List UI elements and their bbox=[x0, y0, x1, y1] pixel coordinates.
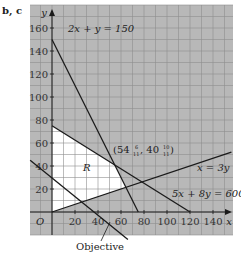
fraction-denominator-x: 11 bbox=[133, 151, 139, 157]
fraction-numerator-x: 6 bbox=[135, 144, 138, 150]
vertex-coordinate-label: (54 bbox=[113, 144, 130, 155]
y-tick-label: 20 bbox=[35, 184, 48, 195]
x-tick-label: 20 bbox=[69, 216, 82, 227]
y-tick-label: 120 bbox=[29, 69, 48, 80]
y-tick-label: 100 bbox=[29, 92, 48, 103]
y-tick-label: 160 bbox=[29, 23, 48, 34]
x-tick-label: 40 bbox=[92, 216, 105, 227]
region-label: R bbox=[82, 162, 91, 173]
linear-programming-chart: 2040608010012014020406080100120140160xyO… bbox=[0, 0, 241, 253]
fraction-denominator-y: 11 bbox=[163, 151, 169, 157]
label-5x-plus-8y-600: 5x + 8y = 600 bbox=[172, 188, 241, 199]
fraction-numerator-y: 10 bbox=[163, 144, 169, 150]
y-tick-label: 60 bbox=[35, 138, 48, 149]
origin-label: O bbox=[36, 216, 44, 227]
x-axis-label: x bbox=[226, 216, 232, 227]
x-tick-label: 120 bbox=[180, 216, 199, 227]
x-tick-label: 80 bbox=[138, 216, 151, 227]
label-2x-plus-y-150: 2x + y = 150 bbox=[67, 23, 135, 34]
x-tick-label: 140 bbox=[203, 216, 222, 227]
y-tick-label: 140 bbox=[29, 46, 48, 57]
x-tick-label: 100 bbox=[157, 216, 176, 227]
y-tick-label: 80 bbox=[35, 115, 48, 126]
closing-paren: ) bbox=[170, 144, 174, 155]
objective-label: Objective bbox=[76, 241, 124, 252]
label-x-eq-3y: x = 3y bbox=[197, 162, 230, 173]
x-tick-label: 60 bbox=[115, 216, 128, 227]
y-axis-label: y bbox=[40, 7, 47, 18]
coordinate-separator: , 40 bbox=[140, 144, 159, 155]
